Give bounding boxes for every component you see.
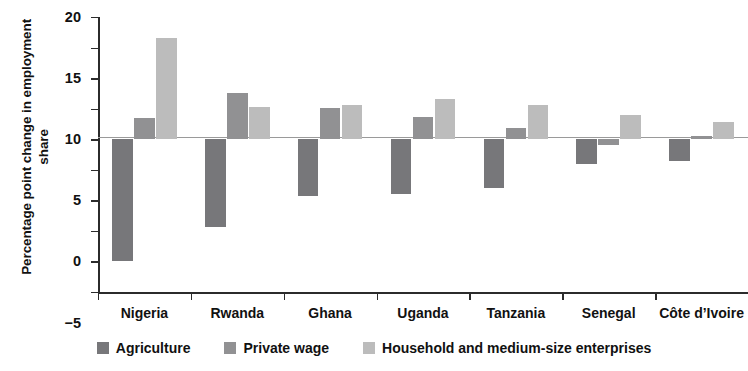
y-axis-title: Percentage point change in employment sh… [19, 7, 53, 287]
bar-group [377, 17, 470, 292]
bar-c-te-d-ivoire-agriculture [669, 139, 690, 160]
plot-area: 20151050−5−10−15−20−25NigeriaRwandaGhana… [98, 17, 748, 292]
bar-senegal-private-wage [598, 139, 619, 145]
bar-uganda-agriculture [391, 139, 412, 194]
bar-group [191, 17, 284, 292]
bar-group [469, 17, 562, 292]
bar-rwanda-private-wage [227, 93, 248, 139]
y-axis-tick: 10 [91, 78, 98, 79]
y-axis-tick-label: 15 [65, 70, 81, 86]
y-axis-tick: −20 [91, 261, 98, 262]
bar-rwanda-agriculture [205, 139, 226, 226]
x-axis-tick [284, 292, 285, 300]
legend-label: Private wage [243, 340, 329, 356]
y-axis-tick: −25 [91, 292, 98, 293]
bar-c-te-d-ivoire-household-and-medium-size-enterprises [713, 122, 734, 140]
x-axis-category-label: Senegal [562, 305, 655, 321]
bar-nigeria-private-wage [134, 118, 155, 139]
bar-ghana-private-wage [320, 108, 341, 139]
legend-item: Private wage [224, 340, 329, 356]
x-axis-tick [377, 292, 378, 300]
bar-group [655, 17, 748, 292]
x-axis-category-label: Tanzania [469, 305, 562, 321]
y-axis-tick-label: 10 [65, 131, 81, 147]
bar-rwanda-household-and-medium-size-enterprises [249, 107, 270, 139]
y-axis-tick-label: −5 [64, 315, 81, 331]
x-axis-category-label: Nigeria [98, 305, 191, 321]
bar-ghana-agriculture [298, 139, 319, 196]
x-axis-category-label: Uganda [377, 305, 470, 321]
bar-c-te-d-ivoire-private-wage [691, 136, 712, 139]
chart-legend: AgriculturePrivate wageHousehold and med… [0, 340, 748, 356]
legend-item: Household and medium-size enterprises [363, 340, 651, 356]
legend-item: Agriculture [97, 340, 191, 356]
legend-swatch-icon [97, 342, 109, 354]
x-axis-tick [469, 292, 470, 300]
x-axis-line [98, 292, 748, 294]
bar-group [98, 17, 191, 292]
y-axis-tick-label: 20 [65, 9, 81, 25]
x-axis-category-label: Ghana [284, 305, 377, 321]
y-axis-tick: 20 [91, 17, 98, 18]
bar-senegal-household-and-medium-size-enterprises [620, 115, 641, 139]
bar-uganda-private-wage [413, 117, 434, 139]
bar-nigeria-household-and-medium-size-enterprises [156, 38, 177, 139]
x-axis-tick [191, 292, 192, 300]
y-axis-tick: −10 [91, 200, 98, 201]
bar-tanzania-household-and-medium-size-enterprises [528, 105, 549, 139]
x-axis-tick [98, 292, 99, 300]
x-axis-tick [655, 292, 656, 300]
bar-group [562, 17, 655, 292]
y-axis-tick: 0 [91, 139, 98, 140]
employment-share-bar-chart: Percentage point change in employment sh… [0, 0, 748, 371]
y-axis-tick: 15 [91, 48, 98, 49]
bar-nigeria-agriculture [112, 139, 133, 261]
y-axis-tick-label: 0 [73, 253, 81, 269]
y-axis-tick: 5 [91, 109, 98, 110]
y-axis-tick: −15 [91, 231, 98, 232]
bar-tanzania-private-wage [506, 128, 527, 140]
legend-label: Agriculture [116, 340, 191, 356]
bar-senegal-agriculture [576, 139, 597, 164]
x-axis-category-label: Côte d’Ivoire [655, 305, 748, 321]
y-axis-tick-label: 5 [73, 192, 81, 208]
bar-uganda-household-and-medium-size-enterprises [435, 99, 456, 139]
legend-label: Household and medium-size enterprises [382, 340, 651, 356]
y-axis-tick: −5 [91, 170, 98, 171]
legend-swatch-icon [224, 342, 236, 354]
bar-ghana-household-and-medium-size-enterprises [342, 105, 363, 139]
legend-swatch-icon [363, 342, 375, 354]
x-axis-category-label: Rwanda [191, 305, 284, 321]
x-axis-tick [562, 292, 563, 300]
bar-tanzania-agriculture [484, 139, 505, 188]
bar-group [284, 17, 377, 292]
